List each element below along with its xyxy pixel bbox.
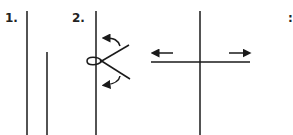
rope-loop	[87, 57, 102, 65]
lower-strand	[100, 60, 130, 79]
knot-diagram	[0, 0, 293, 135]
step-2b-figure	[151, 11, 250, 135]
curved-arrow-down-icon	[106, 76, 120, 85]
upper-strand	[100, 45, 129, 62]
curved-arrow-up-icon	[106, 38, 120, 46]
step-2-figure	[87, 11, 130, 135]
step-1-figure	[27, 11, 47, 135]
